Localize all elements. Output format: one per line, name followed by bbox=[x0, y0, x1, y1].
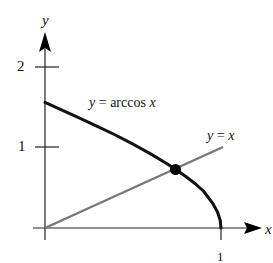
arccos-label-eq: = bbox=[99, 95, 107, 110]
arccos-label-arg: x bbox=[149, 95, 155, 110]
x-tick-label-1: 1 bbox=[217, 250, 224, 263]
identity-line-label: y = x bbox=[207, 129, 234, 143]
y-tick-label-2: 2 bbox=[17, 59, 25, 74]
identity-label-var: y bbox=[207, 128, 213, 143]
y-tick-label-1: 1 bbox=[18, 139, 26, 154]
arccos-curve-label: y = arccos x bbox=[89, 96, 156, 110]
x-axis-label: x bbox=[265, 222, 272, 237]
identity-label-arg: x bbox=[228, 128, 234, 143]
identity-line bbox=[45, 147, 223, 228]
identity-label-eq: = bbox=[217, 128, 225, 143]
arccos-curve bbox=[45, 102, 221, 228]
y-axis-label: y bbox=[42, 13, 49, 28]
arccos-label-fn: arccos bbox=[110, 95, 146, 110]
arccos-label-var: y bbox=[89, 95, 95, 110]
arccos-figure: y x 2 1 1 y = arccos x y = x bbox=[0, 0, 273, 263]
intersection-point bbox=[170, 164, 181, 175]
